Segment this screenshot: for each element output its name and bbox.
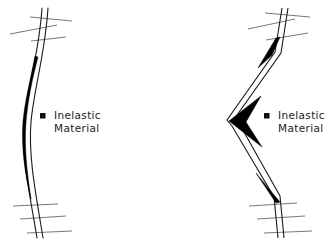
inelastic-material-diagram: Inelastic Material Inelast bbox=[0, 0, 329, 241]
square-bullet-icon bbox=[264, 113, 270, 119]
legend-label-line2: Material bbox=[278, 122, 323, 134]
square-bullet-icon bbox=[40, 113, 46, 119]
legend-label-line1: Inelastic bbox=[278, 109, 325, 121]
legend-label-line2: Material bbox=[54, 122, 99, 134]
legend-label-line1: Inelastic bbox=[54, 109, 101, 121]
